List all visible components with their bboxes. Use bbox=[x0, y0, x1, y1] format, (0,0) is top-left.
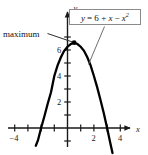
equation-equals: = bbox=[87, 13, 92, 23]
equation-exponent: 2 bbox=[126, 11, 129, 18]
equation-leader-line bbox=[89, 27, 105, 65]
x-tick-label--4: −4 bbox=[10, 133, 20, 143]
x-axis-label: x bbox=[135, 124, 140, 134]
vertex-marker bbox=[72, 40, 77, 45]
equation-constant: 6 + bbox=[94, 13, 106, 23]
equation-x-term: x bbox=[108, 13, 112, 23]
parabola-curve bbox=[36, 43, 113, 153]
equation-minus: − bbox=[115, 13, 120, 23]
y-tick-label-6: 6 bbox=[57, 45, 61, 55]
x-tick-label-2: 2 bbox=[92, 133, 96, 143]
y-tick-label-2: 2 bbox=[57, 97, 61, 107]
maximum-pointer-line bbox=[48, 34, 73, 43]
parabola-figure: y x −4 2 4 2 4 6 maximum y=6 +x−x2 bbox=[0, 0, 148, 155]
y-tick-label-4: 4 bbox=[57, 71, 62, 81]
x-tick-label-4: 4 bbox=[118, 133, 123, 143]
equation-text: y=6 +x−x2 bbox=[81, 11, 129, 23]
equation-y: y bbox=[81, 13, 85, 23]
equation-callout-box: y=6 +x−x2 bbox=[69, 9, 141, 25]
maximum-annotation-label: maximum bbox=[3, 29, 40, 39]
